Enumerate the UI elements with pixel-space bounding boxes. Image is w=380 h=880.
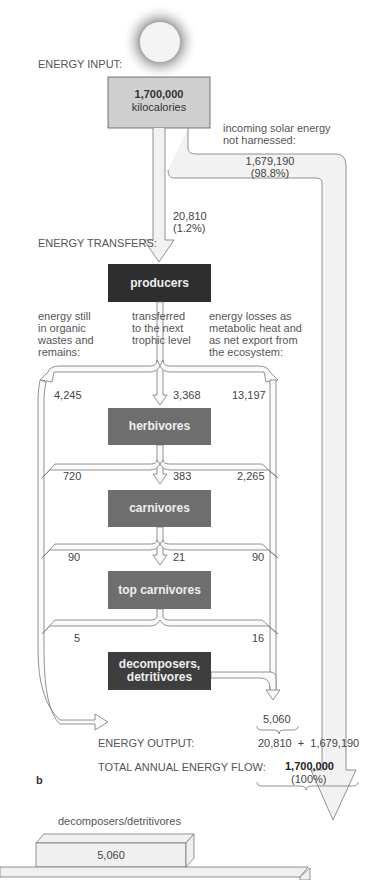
input-unit: kilocalories: [108, 101, 210, 114]
waste-column-label: energy stillin organicwastes andremains:: [38, 310, 94, 358]
input-value: 1,700,000: [108, 88, 210, 101]
not-harnessed-label: incoming solar energy not harnessed:: [223, 122, 331, 146]
output-sum: 20,810 + 1,679,190: [258, 737, 359, 749]
panel-label: b: [36, 774, 43, 786]
flow-value: 90: [252, 551, 264, 563]
flow-value: 90: [68, 551, 80, 563]
flow-value: 5: [74, 632, 80, 644]
input-box: 1,700,000 kilocalories: [108, 88, 210, 114]
decomposer-total: 5,060: [263, 713, 291, 725]
pyramid-top-value: 5,060: [36, 849, 186, 861]
producers-box: producers: [108, 264, 211, 302]
flow-value: 21: [173, 551, 185, 563]
total-value: 1,700,000: [285, 760, 334, 772]
pyramid-top-label: decomposers/detritivores: [58, 815, 181, 827]
energy-input-label: ENERGY INPUT:: [38, 58, 122, 70]
flow-value: 4,245: [54, 389, 82, 401]
flow-value: 3,368: [173, 389, 201, 401]
loss-column-label: energy losses asmetabolic heat andas net…: [209, 310, 302, 358]
total-label: TOTAL ANNUAL ENERGY FLOW:: [98, 761, 266, 773]
flow-value: 383: [173, 470, 191, 482]
total-pct: (100%): [291, 773, 326, 785]
flow-value: 2,265: [237, 470, 265, 482]
top-carnivores-box: top carnivores: [108, 571, 211, 609]
flow-value: 13,197: [232, 389, 266, 401]
flow-value: 16: [252, 632, 264, 644]
decomposers-box: decomposers,detritivores: [108, 652, 211, 690]
transfer-column-label: transferredto the nexttrophic level: [132, 310, 191, 346]
carnivores-box: carnivores: [108, 490, 211, 527]
flow-value: 720: [63, 470, 81, 482]
energy-transfers-label: ENERGY TRANSFERS:: [38, 237, 157, 249]
harnessed-value: 20,810 (1.2%): [173, 210, 207, 234]
not-harnessed-value: 1,679,190 (98.8%): [240, 155, 300, 179]
herbivores-box: herbivores: [108, 408, 211, 445]
energy-output-label: ENERGY OUTPUT:: [98, 737, 194, 749]
